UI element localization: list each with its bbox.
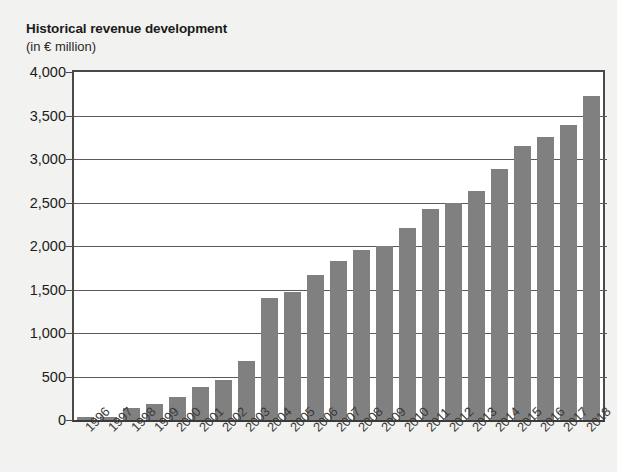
chart-subtitle: (in € million) bbox=[26, 38, 426, 55]
y-tick-label: 500 bbox=[2, 369, 66, 384]
bar-2009[interactable] bbox=[376, 246, 393, 420]
y-tick-label: 4,000 bbox=[2, 65, 66, 80]
x-axis: 1996199719981999200020012002200320042005… bbox=[72, 424, 605, 472]
y-tick-label: 1,000 bbox=[2, 326, 66, 341]
bar-2013[interactable] bbox=[468, 191, 485, 420]
title-block: Historical revenue development (in € mil… bbox=[26, 20, 426, 55]
bar-2018[interactable] bbox=[583, 96, 600, 420]
plot-wrapper bbox=[72, 70, 605, 422]
y-tick-label: 3,000 bbox=[2, 152, 66, 167]
bar-series bbox=[74, 72, 603, 420]
chart-card: Historical revenue development (in € mil… bbox=[0, 0, 617, 472]
y-tick-label: 3,500 bbox=[2, 108, 66, 123]
bar-2016[interactable] bbox=[537, 137, 554, 420]
chart-title: Historical revenue development bbox=[26, 20, 426, 37]
bar-2014[interactable] bbox=[491, 169, 508, 420]
bar-2010[interactable] bbox=[399, 228, 416, 420]
y-axis: 4,0003,5003,0002,5002,0001,5001,0005000 bbox=[0, 70, 66, 422]
y-tick-label: 2,000 bbox=[2, 239, 66, 254]
bar-2015[interactable] bbox=[514, 146, 531, 420]
y-tick-label: 2,500 bbox=[2, 195, 66, 210]
bar-2017[interactable] bbox=[560, 125, 577, 420]
bar-2011[interactable] bbox=[422, 209, 439, 420]
bar-2008[interactable] bbox=[353, 250, 370, 420]
bar-2012[interactable] bbox=[445, 203, 462, 421]
y-tick-label: 1,500 bbox=[2, 282, 66, 297]
y-tick-label: 0 bbox=[2, 413, 66, 428]
